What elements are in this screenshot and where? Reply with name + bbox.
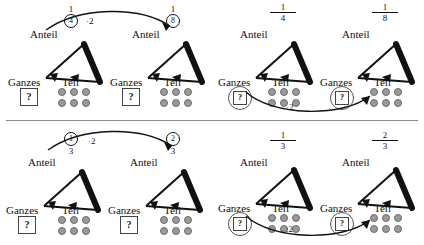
fraction-label: 1 3 xyxy=(58,132,84,156)
fraction-numerator: 2 xyxy=(372,130,398,141)
fraction-label: 1 4 xyxy=(58,4,84,28)
ganzes-label: Ganzes xyxy=(6,204,38,216)
operator-label: ·2 xyxy=(286,102,294,112)
fraction-label: 2 3 xyxy=(372,130,398,151)
unit-group: 1 3 Anteil Ganzes ? Teil xyxy=(16,132,120,244)
part-dot xyxy=(382,214,390,222)
part-dot xyxy=(394,225,402,233)
fraction-denominator: 3 xyxy=(270,141,296,151)
horizontal-divider xyxy=(6,120,418,121)
part-dot xyxy=(160,88,168,96)
ganzes-label: Ganzes xyxy=(110,76,142,88)
panel-top-right: 1 4 Anteil Ganzes ? Teil xyxy=(212,0,424,120)
part-dot xyxy=(70,227,78,235)
part-dot xyxy=(70,99,78,107)
teil-label: Teil xyxy=(164,204,181,216)
part-dot xyxy=(394,88,402,96)
part-dot xyxy=(160,216,168,224)
part-dot xyxy=(82,88,90,96)
part-dot xyxy=(82,216,90,224)
part-dot xyxy=(82,227,90,235)
fraction-denominator: 3 xyxy=(372,141,398,151)
teil-label: Teil xyxy=(62,204,79,216)
fraction-label: 1 8 xyxy=(160,4,186,28)
anteil-label: Anteil xyxy=(130,156,158,168)
worksheet-sheet: ·2 1 4 Anteil Ganzes ? Teil xyxy=(0,0,424,245)
part-dot xyxy=(58,227,66,235)
teil-label: Teil xyxy=(164,76,181,88)
fraction-denominator: 8 xyxy=(372,13,398,23)
whole-value-box[interactable]: ? xyxy=(120,216,138,234)
fraction-numerator: 1 xyxy=(270,2,296,13)
part-dot xyxy=(184,227,192,235)
part-dot xyxy=(382,88,390,96)
part-dot xyxy=(172,227,180,235)
part-dot xyxy=(184,88,192,96)
anteil-label: Anteil xyxy=(240,28,268,40)
part-dot xyxy=(382,99,390,107)
fraction-label: 1 8 xyxy=(372,2,398,23)
fraction-label: 1 4 xyxy=(270,2,296,23)
part-dot xyxy=(394,99,402,107)
part-dot xyxy=(184,99,192,107)
part-dot xyxy=(172,99,180,107)
fraction-denominator: 8 xyxy=(166,14,180,28)
anteil-label: Anteil xyxy=(28,156,56,168)
fraction-label: 1 3 xyxy=(270,130,296,151)
panel-bottom-left: ·2 1 3 Anteil Ganzes ? Teil xyxy=(0,122,212,245)
part-dot-grid xyxy=(160,88,196,110)
anteil-label: Anteil xyxy=(30,28,58,40)
part-dot xyxy=(160,227,168,235)
part-dot xyxy=(70,88,78,96)
part-dot xyxy=(394,214,402,222)
fraction-numerator: 1 xyxy=(64,132,78,146)
part-dot xyxy=(82,99,90,107)
panel-top-left: ·2 1 4 Anteil Ganzes ? Teil xyxy=(0,0,212,120)
part-dot xyxy=(58,216,66,224)
part-dot xyxy=(172,88,180,96)
fraction-denominator: 4 xyxy=(64,14,78,28)
anteil-label: Anteil xyxy=(342,28,370,40)
unit-group: 1 4 Anteil Ganzes ? Teil xyxy=(16,4,120,116)
part-dot xyxy=(184,216,192,224)
fraction-numerator: 1 xyxy=(270,130,296,141)
whole-value-box[interactable]: ? xyxy=(18,216,36,234)
operator-label: :2 xyxy=(286,224,293,234)
fraction-denominator: 3 xyxy=(58,146,84,156)
fraction-numerator: 1 xyxy=(372,2,398,13)
part-dot xyxy=(58,99,66,107)
whole-value-box[interactable]: ? xyxy=(20,88,38,106)
ganzes-label: Ganzes xyxy=(108,204,140,216)
part-dot xyxy=(172,216,180,224)
fraction-numerator: 2 xyxy=(166,132,180,146)
part-dot xyxy=(58,88,66,96)
fraction-numerator: 1 xyxy=(160,4,186,14)
unit-group: 1 8 Anteil Ganzes ? Teil xyxy=(118,4,222,116)
anteil-label: Anteil xyxy=(132,28,160,40)
whole-value-box[interactable]: ? xyxy=(122,88,140,106)
operator-arrow xyxy=(242,210,382,244)
part-dot xyxy=(160,99,168,107)
part-dot-grid xyxy=(160,216,196,238)
fraction-numerator: 1 xyxy=(58,4,84,14)
panel-bottom-right: 1 3 Anteil Ganzes ? Teil xyxy=(212,122,424,245)
fraction-denominator: 3 xyxy=(160,146,186,156)
part-dot-grid xyxy=(58,88,94,110)
part-dot xyxy=(382,225,390,233)
part-dot-grid xyxy=(58,216,94,238)
operator-arrow xyxy=(242,86,382,120)
ganzes-label: Ganzes xyxy=(8,76,40,88)
part-dot xyxy=(70,216,78,224)
fraction-label: 2 3 xyxy=(160,132,186,156)
teil-label: Teil xyxy=(62,76,79,88)
fraction-denominator: 4 xyxy=(270,13,296,23)
unit-group: 2 3 Anteil Ganzes ? Teil xyxy=(118,132,222,244)
